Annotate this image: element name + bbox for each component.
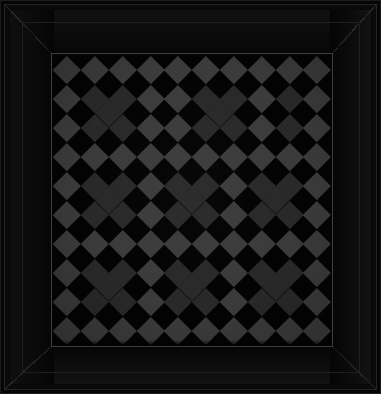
- diamond-tile: [275, 143, 303, 171]
- diamond-tile: [275, 230, 303, 258]
- diamond-tile: [303, 230, 331, 258]
- diamond-tile: [220, 172, 248, 200]
- diamond-tile: [136, 85, 164, 113]
- diamond-tile: [164, 317, 192, 345]
- diamond-tile: [303, 259, 331, 287]
- diamond-tile: [248, 317, 276, 345]
- diamond-tile: [303, 85, 331, 113]
- diamond-tile: [53, 85, 81, 113]
- diamond-tile: [136, 259, 164, 287]
- diamond-tile: [53, 172, 81, 200]
- diamond-tile: [164, 230, 192, 258]
- diamond-tile: [53, 201, 81, 229]
- diamond-tile: [192, 317, 220, 345]
- diamond-tile: [248, 114, 276, 142]
- diamond-tile: [53, 288, 81, 316]
- diamond-tile: [248, 143, 276, 171]
- diamond-tile: [164, 143, 192, 171]
- diamond-tile: [275, 85, 303, 113]
- diamond-tile: [136, 288, 164, 316]
- diamond-tile: [164, 85, 192, 113]
- diamond-tile: [220, 143, 248, 171]
- diamond-tile: [303, 114, 331, 142]
- tiled-panel: [53, 55, 331, 345]
- diamond-tile-grid: [53, 55, 331, 345]
- diamond-tile: [136, 201, 164, 229]
- diamond-tile: [109, 143, 137, 171]
- diamond-tile: [248, 85, 276, 113]
- diamond-tile: [248, 230, 276, 258]
- diamond-tile: [109, 317, 137, 345]
- frame-slab-top: [10, 10, 371, 56]
- diamond-tile: [303, 201, 331, 229]
- diamond-tile: [53, 259, 81, 287]
- diamond-tile: [275, 317, 303, 345]
- diamond-tile: [220, 317, 248, 345]
- diamond-tile: [136, 114, 164, 142]
- diamond-tile: [164, 56, 192, 84]
- diamond-tile: [192, 143, 220, 171]
- artwork-canvas: Framed Diagonal Checkerboard Panel Dark …: [0, 0, 381, 394]
- diamond-tile: [303, 288, 331, 316]
- diamond-tile: [275, 56, 303, 84]
- diamond-tile: [53, 143, 81, 171]
- diamond-tile: [303, 172, 331, 200]
- diamond-tile: [275, 114, 303, 142]
- diamond-tile: [248, 56, 276, 84]
- diamond-tile: [220, 288, 248, 316]
- frame-slab-left: [10, 10, 54, 384]
- artwork-title: Framed Diagonal Checkerboard Panel: [0, 0, 1, 1]
- diamond-tile: [81, 317, 109, 345]
- diamond-tile: [220, 56, 248, 84]
- diamond-tile: [220, 230, 248, 258]
- diamond-tile: [220, 259, 248, 287]
- diamond-tile: [192, 56, 220, 84]
- diamond-tile: [192, 230, 220, 258]
- diamond-tile: [53, 56, 81, 84]
- frame-slab-right: [330, 10, 371, 384]
- diamond-tile: [81, 56, 109, 84]
- diamond-tile: [303, 143, 331, 171]
- diamond-tile: [136, 143, 164, 171]
- diamond-tile: [53, 230, 81, 258]
- diamond-tile: [220, 201, 248, 229]
- diamond-tile: [136, 230, 164, 258]
- diamond-tile: [136, 317, 164, 345]
- diamond-tile: [164, 114, 192, 142]
- diamond-tile: [81, 230, 109, 258]
- diamond-tile: [136, 56, 164, 84]
- diamond-tile: [109, 56, 137, 84]
- diamond-tile: [136, 172, 164, 200]
- artwork-caption: Dark beveled frame enclosing an argyle-s…: [0, 0, 1, 1]
- frame-slab-bottom: [10, 344, 371, 384]
- diamond-tile: [109, 230, 137, 258]
- diamond-tile: [303, 317, 331, 345]
- diamond-tile: [53, 317, 81, 345]
- diamond-tile: [53, 114, 81, 142]
- diamond-tile: [303, 56, 331, 84]
- diamond-tile: [81, 143, 109, 171]
